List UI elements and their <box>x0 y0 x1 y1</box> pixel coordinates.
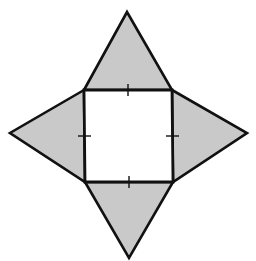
pyramid-net-canvas <box>0 0 256 261</box>
pyramid-net-diagram <box>0 0 256 261</box>
bottom-triangle <box>85 182 173 258</box>
left-triangle <box>10 90 85 182</box>
square-base-face <box>84 90 173 182</box>
right-triangle <box>172 90 247 182</box>
top-triangle <box>84 12 172 90</box>
